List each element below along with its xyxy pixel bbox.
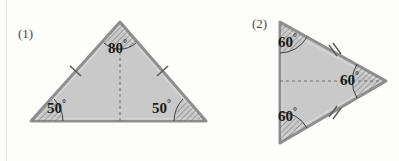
degree-symbol: ° — [167, 98, 171, 109]
figure-2-bottom-angle-label: 60° — [278, 106, 297, 125]
degree-symbol: ° — [293, 32, 297, 43]
figure-2-right-angle-label: 60° — [340, 70, 359, 89]
figure-1-apex-angle-label: 80° — [108, 38, 127, 57]
degree-symbol: ° — [293, 106, 297, 117]
figure-1-label: (1) — [18, 26, 33, 42]
figure-2-label: (2) — [252, 16, 267, 32]
figure-1-base-right-angle-label: 50° — [152, 98, 171, 117]
degree-symbol: ° — [62, 98, 66, 109]
figure-1-base-right-angle-value: 50 — [152, 100, 167, 116]
figure-page: (1) (2) 80° 50° 50° 60° 60° 60° — [0, 0, 399, 161]
figure-2-bottom-angle-value: 60 — [278, 108, 293, 124]
figure-1-base-left-angle-label: 50° — [47, 98, 66, 117]
figure-2-right-angle-value: 60 — [340, 72, 355, 88]
degree-symbol: ° — [355, 70, 359, 81]
figure-2-top-angle-label: 60° — [278, 32, 297, 51]
degree-symbol: ° — [123, 38, 127, 49]
figure-1-base-left-angle-value: 50 — [47, 100, 62, 116]
figure-2-top-angle-value: 60 — [278, 34, 293, 50]
figure-1-apex-angle-value: 80 — [108, 40, 123, 56]
